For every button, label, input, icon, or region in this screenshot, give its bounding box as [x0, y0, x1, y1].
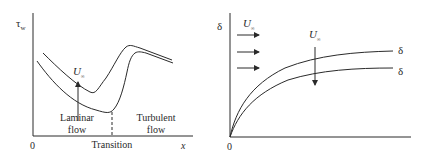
transition-label: Transition: [92, 139, 133, 150]
shear-curve-low-velocity: [37, 52, 173, 113]
x-axis-label: x: [180, 140, 186, 151]
velocity-label: U∞: [309, 28, 321, 42]
laminar-label-line2: flow: [68, 124, 87, 135]
thickness-curve-low-velocity: [230, 51, 393, 137]
turbulent-label-line1: Turbulent: [136, 112, 175, 123]
turbulent-label-line2: flow: [147, 124, 166, 135]
curve-label-lower: δ: [398, 65, 403, 77]
thickness-curve-high-velocity: [230, 68, 393, 137]
curve-label-upper: δ: [398, 44, 403, 56]
y-axis-label: τw: [16, 17, 26, 32]
figure-canvas: τw U∞ Laminar flow Turbulent flow 0 Tran…: [0, 0, 427, 157]
origin-label: 0: [227, 141, 232, 152]
boundary-layer-thickness-diagram: δ U∞ U∞ δ δ 0: [217, 13, 411, 152]
laminar-label-line1: Laminar: [60, 112, 95, 123]
origin-label: 0: [30, 140, 35, 151]
y-axis-label: δ: [217, 20, 222, 32]
velocity-label: U∞: [73, 65, 85, 79]
shear-curve-high-velocity: [43, 45, 172, 92]
inflow-velocity-label: U∞: [243, 17, 255, 31]
wall-shear-stress-diagram: τw U∞ Laminar flow Turbulent flow 0 Tran…: [16, 13, 193, 151]
